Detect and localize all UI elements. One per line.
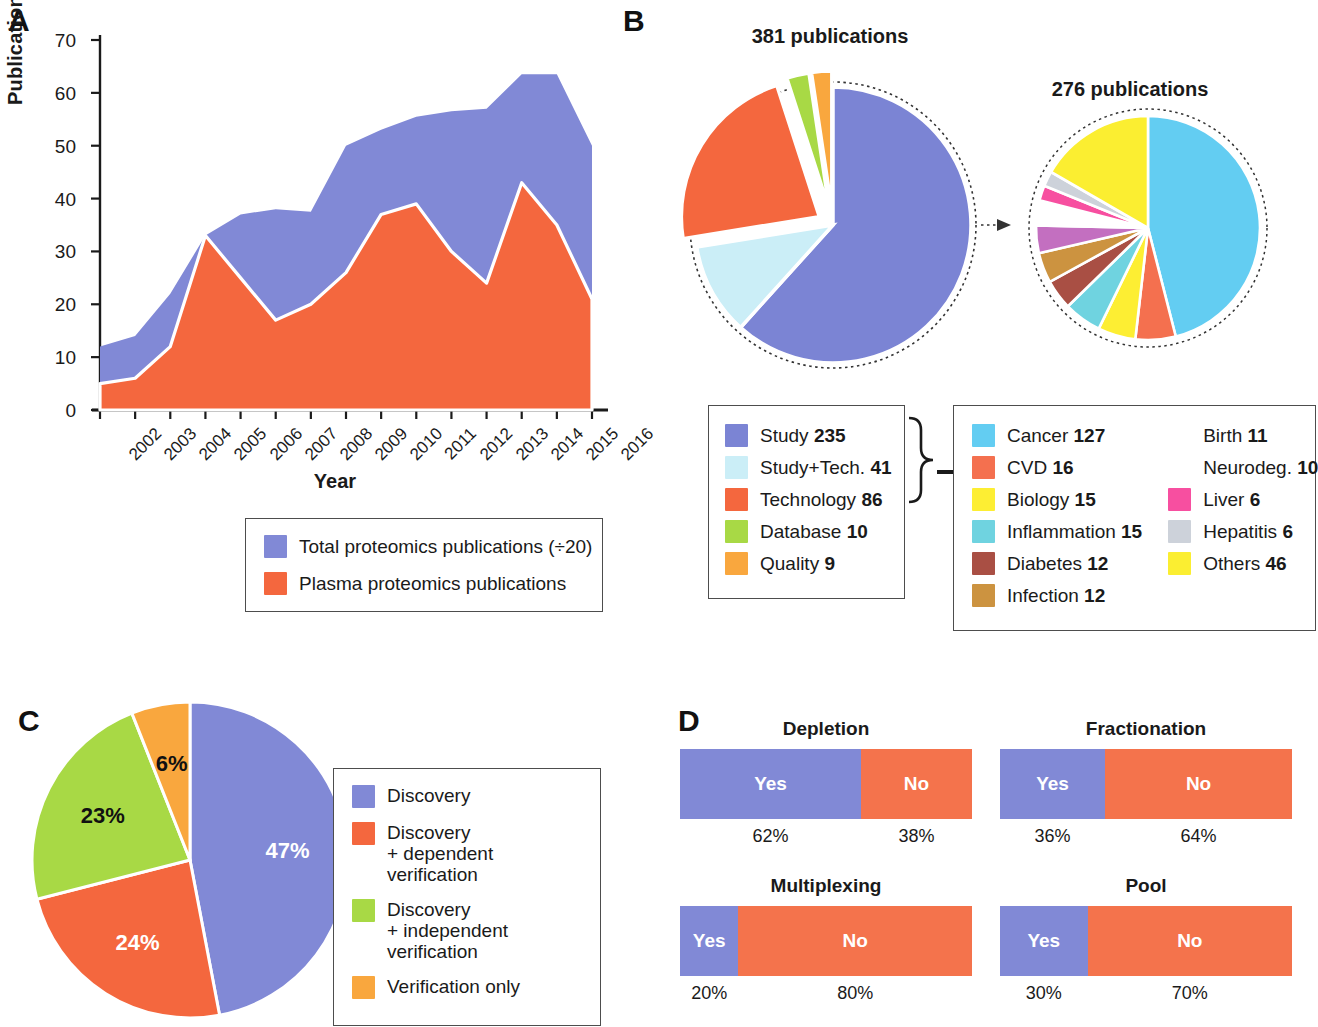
panel-b-left-legend-item: Technology 86 xyxy=(725,488,888,511)
panel-b: B 381 publications 276 publications Stud… xyxy=(615,0,1316,670)
legend-label: Inflammation 15 xyxy=(1007,520,1142,543)
panel-d-percent-label: 20% xyxy=(680,983,738,1004)
legend-color-swatch xyxy=(352,822,375,845)
legend-count: 16 xyxy=(1052,457,1073,478)
legend-color-swatch xyxy=(972,424,995,447)
panel-b-right-legend-item: Birth 11 xyxy=(1168,424,1318,447)
panel-c-legend-item: Discovery+ dependent verification xyxy=(352,822,584,885)
legend-color-swatch xyxy=(264,572,287,595)
legend-color-swatch xyxy=(972,584,995,607)
panel-b-left-legend-item: Study 235 xyxy=(725,424,888,447)
panel-a-y-tick: 50 xyxy=(40,136,76,158)
panel-b-right-legend-item: Neurodeg. 10 xyxy=(1168,456,1318,479)
panel-c-legend-item: Verification only xyxy=(352,976,584,999)
panel-b-right-legend-item: Others 46 xyxy=(1168,552,1318,575)
panel-a-y-tick: 0 xyxy=(40,400,76,422)
panel-d-percent-label: 64% xyxy=(1105,826,1292,847)
legend-count: 46 xyxy=(1266,553,1287,574)
legend-color-swatch xyxy=(352,899,375,922)
panel-a-x-axis-title: Year xyxy=(100,470,570,493)
panel-b-right-legend-item: Biology 15 xyxy=(972,488,1142,511)
panel-d-bar-group: PoolYesNo30%70% xyxy=(1000,875,1292,1004)
panel-c-pie: 47%24%23%6% xyxy=(25,695,355,1025)
panel-a-y-tick: 40 xyxy=(40,189,76,211)
panel-c-legend-label: Verification only xyxy=(387,976,520,997)
panel-a-legend: Total proteomics publications (÷20)Plasm… xyxy=(245,518,603,612)
panel-b-left-legend-item: Study+Tech. 41 xyxy=(725,456,888,479)
legend-count: 10 xyxy=(847,521,868,542)
legend-label: Database 10 xyxy=(760,520,868,543)
panel-b-right-legend: Cancer 127CVD 16Biology 15Inflammation 1… xyxy=(953,405,1316,631)
panel-c-legend-item: Discovery+ independent verification xyxy=(352,899,584,962)
panel-b-left-legend-item: Quality 9 xyxy=(725,552,888,575)
panel-d-percent-row: 36%64% xyxy=(1000,826,1292,847)
panel-a-legend-item: Plasma proteomics publications xyxy=(264,572,584,595)
panel-b-right-legend-item: Liver 6 xyxy=(1168,488,1318,511)
panel-d-percent-label: 62% xyxy=(680,826,861,847)
panel-c-slice-label: 23% xyxy=(81,803,125,828)
panel-b-right-legend-item: Infection 12 xyxy=(972,584,1142,607)
panel-d-bar-group: FractionationYesNo36%64% xyxy=(1000,718,1292,847)
panel-d-percent-label: 36% xyxy=(1000,826,1105,847)
panel-d-percent-label: 80% xyxy=(738,983,972,1004)
legend-color-swatch xyxy=(725,488,748,511)
legend-count: 41 xyxy=(870,457,891,478)
panel-d-percent-row: 62%38% xyxy=(680,826,972,847)
legend-color-swatch xyxy=(1168,488,1191,511)
panel-d-percent-label: 38% xyxy=(861,826,972,847)
panel-b-right-legend-item: Cancer 127 xyxy=(972,424,1142,447)
legend-color-swatch xyxy=(352,785,375,808)
legend-label: Quality 9 xyxy=(760,552,835,575)
panel-a-legend-label: Plasma proteomics publications xyxy=(299,572,566,595)
legend-color-swatch xyxy=(1168,552,1191,575)
legend-color-swatch xyxy=(352,976,375,999)
panel-d-stacked-bar: YesNo xyxy=(680,749,972,819)
legend-label: Hepatitis 6 xyxy=(1203,520,1293,543)
panel-d-percent-label: 30% xyxy=(1000,983,1088,1004)
panel-a: A Publications/Year Year Total proteomic… xyxy=(0,0,615,640)
legend-color-swatch xyxy=(1168,456,1191,479)
panel-a-y-tick: 60 xyxy=(40,83,76,105)
panel-d-percent-row: 30%70% xyxy=(1000,983,1292,1004)
legend-label: Infection 12 xyxy=(1007,584,1105,607)
legend-count: 6 xyxy=(1250,489,1261,510)
legend-label: Study 235 xyxy=(760,424,846,447)
panel-b-left-legend-item: Database 10 xyxy=(725,520,888,543)
panel-a-legend-label: Total proteomics publications (÷20) xyxy=(299,535,592,558)
panel-c-legend-item: Discovery xyxy=(352,785,584,808)
legend-color-swatch xyxy=(972,552,995,575)
panel-d-bar-segment: No xyxy=(861,749,972,819)
legend-count: 86 xyxy=(861,489,882,510)
panel-b-right-legend-item: Inflammation 15 xyxy=(972,520,1142,543)
legend-count: 15 xyxy=(1075,489,1096,510)
panel-a-y-tick: 70 xyxy=(40,30,76,52)
panel-b-right-legend-item: Diabetes 12 xyxy=(972,552,1142,575)
legend-label: Others 46 xyxy=(1203,552,1286,575)
panel-d-bar-title: Multiplexing xyxy=(680,875,972,897)
legend-label: Liver 6 xyxy=(1203,488,1260,511)
legend-count: 15 xyxy=(1121,521,1142,542)
panel-d-bar-segment: No xyxy=(1105,749,1292,819)
legend-color-swatch xyxy=(972,488,995,511)
panel-b-right-legend-item: Hepatitis 6 xyxy=(1168,520,1318,543)
panel-d-bar-group: MultiplexingYesNo20%80% xyxy=(680,875,972,1004)
legend-color-swatch xyxy=(725,552,748,575)
legend-count: 127 xyxy=(1074,425,1106,446)
panel-d-bar-segment: Yes xyxy=(1000,749,1105,819)
legend-label: Biology 15 xyxy=(1007,488,1096,511)
panel-c-slice-label: 24% xyxy=(115,930,159,955)
legend-label: Diabetes 12 xyxy=(1007,552,1108,575)
legend-count: 10 xyxy=(1297,457,1318,478)
legend-label: Birth 11 xyxy=(1203,424,1267,447)
panel-c-slice-label: 6% xyxy=(156,751,188,776)
panel-d-bar-title: Pool xyxy=(1000,875,1292,897)
panel-d-bar-group: DepletionYesNo62%38% xyxy=(680,718,972,847)
panel-c-legend: DiscoveryDiscovery+ dependent verificati… xyxy=(333,768,601,1026)
panel-c: C 47%24%23%6% DiscoveryDiscovery+ depend… xyxy=(0,690,615,1027)
panel-d-bar-segment: No xyxy=(738,906,972,976)
legend-count: 6 xyxy=(1282,521,1293,542)
legend-color-swatch xyxy=(1168,424,1191,447)
legend-label: CVD 16 xyxy=(1007,456,1074,479)
panel-d: D DepletionYesNo62%38%FractionationYesNo… xyxy=(660,690,1316,1027)
panel-d-bar-segment: Yes xyxy=(1000,906,1088,976)
